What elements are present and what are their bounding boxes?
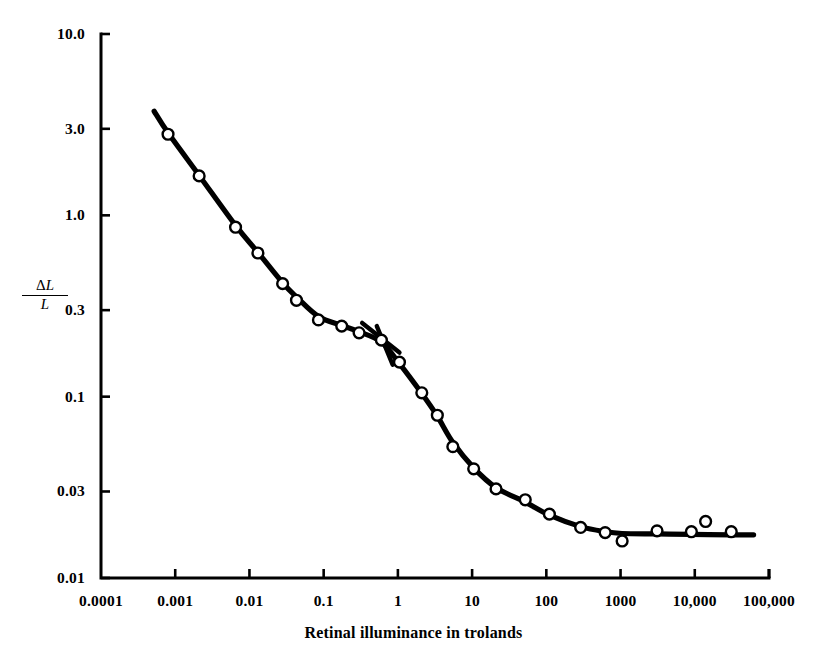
data-point: [617, 536, 628, 547]
data-point: [520, 494, 531, 505]
y-axis-title: ΔL L: [22, 278, 68, 313]
x-tick-label: 0.0001: [79, 592, 123, 610]
y-tick-label: 3.0: [0, 120, 85, 138]
axis-lines: [101, 34, 769, 578]
data-point: [313, 315, 324, 326]
x-tick-label: 10: [464, 592, 480, 610]
data-point: [432, 410, 443, 421]
chart-plot: [0, 0, 827, 668]
x-tick-label: 1000: [605, 592, 637, 610]
y-tick-label: 10.0: [0, 25, 85, 43]
y-tick-label: 0.1: [0, 388, 85, 406]
data-point: [686, 526, 697, 537]
data-point: [376, 335, 387, 346]
data-point: [394, 357, 405, 368]
data-point: [544, 509, 555, 520]
data-point: [468, 463, 479, 474]
data-point: [336, 321, 347, 332]
data-point: [652, 525, 663, 536]
x-tick-label: 1: [394, 592, 402, 610]
data-point: [600, 527, 611, 538]
y-axis-title-denominator: L: [22, 296, 68, 313]
data-point: [253, 248, 264, 259]
x-axis-title: Retinal illuminance in trolands: [0, 624, 827, 642]
data-point: [194, 171, 205, 182]
data-point: [491, 484, 502, 495]
x-tick-label: 0.001: [157, 592, 193, 610]
data-point: [291, 295, 302, 306]
data-point: [277, 278, 288, 289]
x-tick-label: 0.01: [235, 592, 263, 610]
x-tick-label: 10,000: [673, 592, 717, 610]
figure-container: 10.03.01.00.30.10.030.01 0.00010.0010.01…: [0, 0, 827, 668]
x-tick-label: 100,000: [743, 592, 795, 610]
data-point: [575, 522, 586, 533]
y-tick-label: 0.01: [0, 569, 85, 587]
x-tick-label: 100: [534, 592, 558, 610]
data-points: [163, 129, 737, 547]
data-point: [354, 327, 365, 338]
y-tick-label: 0.03: [0, 482, 85, 500]
data-point: [163, 129, 174, 140]
data-point: [700, 516, 711, 527]
y-tick-label: 1.0: [0, 206, 85, 224]
data-point: [447, 441, 458, 452]
fit-curve: [154, 111, 753, 535]
data-point: [416, 387, 427, 398]
data-point: [230, 222, 241, 233]
x-tick-label: 0.1: [314, 592, 334, 610]
y-axis-title-numerator: ΔL: [22, 278, 68, 296]
axis-ticks: [101, 34, 769, 578]
data-point: [726, 526, 737, 537]
